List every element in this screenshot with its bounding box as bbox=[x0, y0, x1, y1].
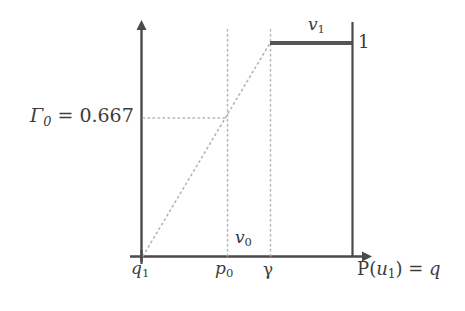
p0-subscript: 0 bbox=[226, 266, 233, 280]
x-axis-title: P(u1) = q bbox=[357, 260, 441, 281]
v0-label: v0 bbox=[235, 229, 252, 249]
v0-ramp-dotted-line bbox=[143, 43, 270, 256]
q1-subscript: 1 bbox=[142, 266, 149, 280]
x-tick-label-gamma: γ bbox=[263, 261, 273, 278]
y-axis-arrowhead bbox=[137, 20, 147, 30]
v1-symbol: v bbox=[308, 14, 318, 34]
y-value-one-label: 1 bbox=[358, 33, 369, 51]
q1-symbol: q bbox=[131, 258, 142, 278]
v1-subscript: 1 bbox=[318, 22, 325, 36]
gamma0-value-label: Γ0 = 0.667 bbox=[30, 106, 134, 129]
p0-symbol: p bbox=[215, 258, 226, 278]
gamma0-symbol: Γ bbox=[30, 104, 43, 126]
x-axis-u-subscript: 1 bbox=[388, 267, 396, 281]
x-axis-q: q bbox=[429, 258, 441, 279]
v0-subscript: 0 bbox=[245, 235, 252, 249]
v1-label: v1 bbox=[308, 16, 325, 36]
x-tick-label-p0: p0 bbox=[215, 260, 233, 280]
x-axis-u: u bbox=[376, 258, 388, 279]
figure-canvas: Γ0 = 0.667 v1 1 v0 q1 p0 γ P(u1) = q bbox=[0, 0, 465, 311]
x-axis-p: P bbox=[357, 258, 369, 279]
x-axis-paren-close: ) bbox=[396, 258, 403, 279]
x-tick-label-q1: q1 bbox=[131, 260, 149, 280]
v0-symbol: v bbox=[235, 227, 245, 247]
gamma0-value: 0.667 bbox=[79, 104, 133, 126]
gamma0-equals: = bbox=[51, 104, 79, 126]
x-axis-equals: = bbox=[403, 258, 430, 279]
